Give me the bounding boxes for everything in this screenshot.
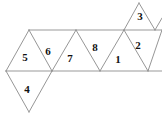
face-label-7: 7 [67, 53, 73, 64]
edge-face4-right [29, 71, 52, 112]
face-label-4: 4 [24, 84, 30, 95]
edge-face2-right [148, 30, 162, 71]
face-label-2: 2 [135, 40, 141, 51]
net-diagram: 5 6 7 8 1 2 3 4 [0, 0, 162, 121]
edge-face1-right [124, 30, 148, 71]
face-label-3: 3 [137, 11, 143, 22]
face-label-6: 6 [45, 46, 51, 57]
face-label-5: 5 [22, 52, 28, 63]
edge-face3-far-right [155, 18, 162, 30]
face-label-8: 8 [92, 42, 98, 53]
face-label-1: 1 [115, 54, 121, 65]
edge-face6-right [52, 30, 76, 71]
edge-face8-right [100, 30, 124, 71]
